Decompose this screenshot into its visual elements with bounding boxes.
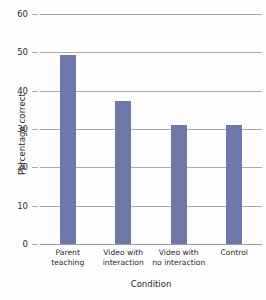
x-axis-tick-label: Video with no interaction (151, 248, 207, 267)
y-axis-tick (32, 129, 38, 130)
bar (115, 101, 131, 244)
bar (171, 125, 187, 244)
x-axis-tick-label: Control (207, 248, 263, 258)
bar (60, 55, 76, 244)
y-axis-tick (32, 167, 38, 168)
gridline (40, 52, 262, 53)
y-axis-tick-label: 0 (23, 239, 28, 249)
x-axis-title: Condition (40, 279, 262, 289)
y-axis-tick-label: 50 (17, 47, 28, 57)
gridline (40, 244, 262, 245)
bar (226, 125, 242, 244)
x-axis-tick-label: Video with interaction (96, 248, 152, 267)
plot-area: 0102030405060 (40, 14, 262, 244)
x-axis-tick-label: Parent teaching (40, 248, 96, 267)
y-axis-tick (32, 244, 38, 245)
y-axis-tick (32, 52, 38, 53)
y-axis-tick-label: 20 (17, 162, 28, 172)
y-axis-tick-label: 30 (17, 124, 28, 134)
y-axis-tick (32, 206, 38, 207)
y-axis-tick-label: 60 (17, 9, 28, 19)
y-axis-title: Percentage correct (17, 54, 27, 214)
y-axis-tick-label: 10 (17, 201, 28, 211)
y-axis-tick (32, 91, 38, 92)
y-axis-tick (32, 14, 38, 15)
bar-chart: Percentage correct 0102030405060 Conditi… (0, 0, 266, 300)
y-axis-tick-label: 40 (17, 86, 28, 96)
gridline (40, 14, 262, 15)
